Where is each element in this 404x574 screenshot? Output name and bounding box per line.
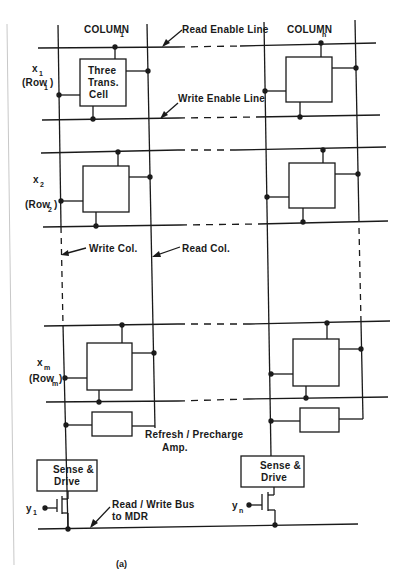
- svg-text:Three: Three: [88, 65, 116, 76]
- svg-text:x: x: [33, 174, 39, 185]
- svg-text:m: m: [52, 380, 58, 387]
- cell-row-2-column-1: [59, 150, 152, 228]
- read-write-bus-line: [38, 524, 358, 529]
- read-enable-line-annotation: Read Enable Line: [162, 24, 269, 47]
- column-n-write-col-line: [264, 22, 271, 456]
- cell-row-1-column-1: Three Trans. Cell: [57, 45, 150, 121]
- write-col-annotation: Write Col.: [61, 243, 138, 256]
- column-n-read-col-line: [355, 20, 363, 419]
- select-transistor-column-n: y n: [232, 487, 277, 527]
- svg-text:Cell: Cell: [89, 89, 108, 100]
- svg-text:Refresh / Precharge: Refresh / Precharge: [145, 429, 244, 440]
- row-1-label: x 1 (Row 1 ): [22, 63, 54, 91]
- svg-text:Read Enable Line: Read Enable Line: [182, 24, 269, 35]
- svg-text:Drive: Drive: [54, 476, 80, 487]
- svg-text:1: 1: [44, 84, 48, 91]
- svg-text:x: x: [37, 357, 43, 368]
- svg-text:Sense &: Sense &: [53, 464, 94, 475]
- svg-text:m: m: [44, 364, 50, 371]
- column-n-header: COLUMN n: [287, 24, 332, 38]
- svg-text:2: 2: [40, 181, 44, 188]
- row-m-read-enable-line: [44, 321, 390, 326]
- cell-row-2-column-n: [265, 148, 360, 224]
- svg-text:y: y: [26, 503, 32, 514]
- svg-text:Write Enable Line: Write Enable Line: [178, 93, 265, 104]
- svg-text:2: 2: [48, 206, 52, 213]
- refresh-amp-annotation: Refresh / Precharge Amp.: [145, 429, 244, 453]
- svg-text:Drive: Drive: [261, 472, 287, 483]
- svg-text:(Row: (Row: [29, 373, 54, 384]
- row-1-read-enable-line: [38, 43, 376, 48]
- row-2-label: x 2 (Row 2 ): [25, 174, 58, 213]
- svg-text:): ): [59, 373, 63, 384]
- select-transistor-column-1: y 1: [26, 491, 70, 531]
- svg-text:): ): [54, 199, 58, 210]
- svg-text:Sense &: Sense &: [260, 460, 301, 471]
- memory-array-diagram: COLUMN 1 COLUMN n: [0, 0, 404, 574]
- sense-drive-column-1: Sense & Drive: [37, 460, 97, 491]
- svg-text:Write Col.: Write Col.: [89, 243, 138, 254]
- column-1-write-col-line: [58, 25, 68, 530]
- refresh-amp-column-n: [269, 408, 363, 432]
- refresh-amp-column-1: [64, 412, 155, 436]
- read-col-annotation: Read Col.: [152, 243, 230, 257]
- svg-text:to MDR: to MDR: [112, 511, 149, 522]
- svg-text:1: 1: [33, 509, 37, 516]
- svg-text:1: 1: [39, 70, 43, 77]
- sense-drive-column-n: Sense & Drive: [241, 456, 304, 487]
- cell-row-m-column-n: [269, 321, 363, 400]
- svg-text:n: n: [322, 31, 326, 38]
- cell-row-1-column-n: [263, 41, 358, 119]
- column-1-header: COLUMN 1: [84, 24, 129, 38]
- svg-text:y: y: [232, 500, 238, 511]
- svg-text:Read / Write Bus: Read / Write Bus: [112, 499, 195, 510]
- svg-text:n: n: [239, 507, 243, 514]
- figure-caption: (a): [116, 559, 127, 569]
- write-enable-line-annotation: Write Enable Line: [160, 93, 265, 119]
- row-m-label: x m (Row m ): [29, 357, 63, 387]
- svg-text:Read Col.: Read Col.: [182, 243, 230, 254]
- read-write-bus-annotation: Read / Write Bus to MDR: [90, 499, 195, 528]
- svg-text:Amp.: Amp.: [162, 442, 188, 453]
- svg-text:): ): [50, 77, 54, 88]
- svg-text:(Row: (Row: [25, 199, 50, 210]
- svg-text:1: 1: [120, 31, 124, 38]
- page-edge-line: [7, 24, 14, 565]
- cell-row-m-column-1: [63, 323, 156, 404]
- row-2-read-enable-line: [41, 147, 386, 153]
- svg-text:Trans.: Trans.: [88, 77, 119, 88]
- svg-text:x: x: [32, 63, 38, 74]
